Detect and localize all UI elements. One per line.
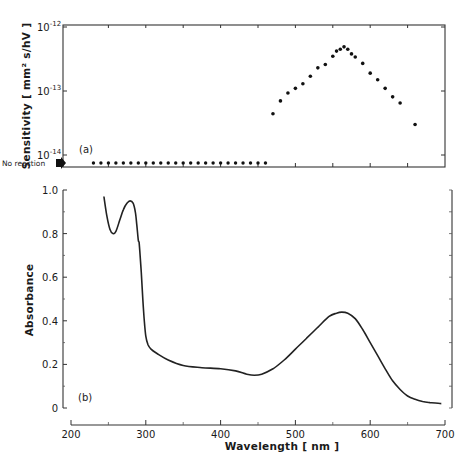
panel-b-label: (b) xyxy=(78,392,92,403)
no-reaction-point xyxy=(159,161,162,164)
no-reaction-point xyxy=(264,161,267,164)
x-tick-label: 300 xyxy=(136,429,155,440)
no-reaction-points xyxy=(92,161,267,164)
y-tick-label: 0.4 xyxy=(42,316,58,327)
sensitivity-point xyxy=(279,99,283,103)
panel-a-sensitivity: 10-1210-1310-14 Sensitivity [ mm² s/hV ]… xyxy=(2,20,445,169)
no-reaction-point xyxy=(167,161,170,164)
no-reaction-point xyxy=(99,161,102,164)
no-reaction-point xyxy=(226,161,229,164)
no-reaction-point xyxy=(122,161,125,164)
x-tick-label: 400 xyxy=(211,429,230,440)
panel-b-x-ticks: 200300400500600700 xyxy=(61,420,454,440)
panel-a-x-ticks xyxy=(108,25,407,167)
sensitivity-points xyxy=(271,45,417,126)
sensitivity-point xyxy=(338,47,342,51)
no-reaction-point xyxy=(234,161,237,164)
panel-a-y-axis-title: Sensitivity [ mm² s/hV ] xyxy=(20,23,32,170)
y-tick-label: 1.0 xyxy=(42,185,58,196)
y-tick-label: 0 xyxy=(52,403,58,414)
absorbance-curve xyxy=(104,197,441,404)
x-tick-label: 500 xyxy=(286,429,305,440)
no-reaction-point xyxy=(204,161,207,164)
x-tick-label: 700 xyxy=(435,429,454,440)
figure: 10-1210-1310-14 Sensitivity [ mm² s/hV ]… xyxy=(0,0,471,467)
no-reaction-label: No reaction xyxy=(2,159,45,168)
sensitivity-point xyxy=(301,82,305,86)
y-tick-label: 0.2 xyxy=(42,359,58,370)
no-reaction-point xyxy=(174,161,177,164)
sensitivity-point xyxy=(350,52,354,56)
y-tick-label: 10-12 xyxy=(37,20,61,33)
x-tick-label: 200 xyxy=(61,429,80,440)
x-tick-label: 600 xyxy=(361,429,380,440)
panel-a-y-ticks: 10-1210-1310-14 xyxy=(37,20,445,161)
no-reaction-point xyxy=(144,161,147,164)
sensitivity-point xyxy=(398,101,402,105)
no-reaction-point xyxy=(241,161,244,164)
sensitivity-point xyxy=(309,74,313,78)
no-reaction-point xyxy=(249,161,252,164)
no-reaction-point xyxy=(92,161,95,164)
sensitivity-point xyxy=(271,112,275,116)
no-reaction-point xyxy=(107,161,110,164)
sensitivity-point xyxy=(383,87,387,91)
sensitivity-point xyxy=(368,71,372,75)
no-reaction-point xyxy=(129,161,132,164)
sensitivity-point xyxy=(316,66,320,70)
sensitivity-point xyxy=(324,63,328,67)
sensitivity-point xyxy=(391,95,395,99)
sensitivity-point xyxy=(342,45,346,49)
no-reaction-point xyxy=(219,161,222,164)
no-reaction-point xyxy=(256,161,259,164)
no-reaction-point xyxy=(196,161,199,164)
no-reaction-point xyxy=(137,161,140,164)
sensitivity-point xyxy=(361,62,365,66)
panel-a-frame xyxy=(63,25,445,167)
no-reaction-point xyxy=(182,161,185,164)
sensitivity-point xyxy=(335,49,339,53)
panel-b-x-axis-title: Wavelength [ nm ] xyxy=(225,440,340,452)
panel-a-label: (a) xyxy=(79,144,93,155)
sensitivity-point xyxy=(331,54,335,58)
sensitivity-point xyxy=(376,78,380,82)
sensitivity-point xyxy=(346,47,350,51)
no-reaction-point xyxy=(211,161,214,164)
sensitivity-point xyxy=(353,55,357,59)
no-reaction-point xyxy=(152,161,155,164)
y-tick-label: 10-13 xyxy=(37,84,61,97)
no-reaction-point xyxy=(189,161,192,164)
sensitivity-point xyxy=(294,87,298,91)
sensitivity-point xyxy=(413,123,417,127)
panel-b-y-axis-title: Absorbance xyxy=(23,264,35,337)
y-tick-label: 0.8 xyxy=(42,229,58,240)
panel-b-absorbance: 00.20.40.60.81.0 200300400500600700 Abso… xyxy=(23,185,455,452)
y-tick-label: 0.6 xyxy=(42,272,58,283)
sensitivity-point xyxy=(286,91,290,95)
no-reaction-point xyxy=(114,161,117,164)
